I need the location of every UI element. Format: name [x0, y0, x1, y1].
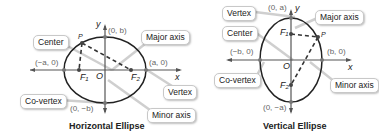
- vertex-callout-v: Vertex: [222, 6, 256, 21]
- y-axis-arrow-down-v: [289, 108, 293, 114]
- f1-label-h: F₁: [80, 72, 88, 82]
- co-vertex-left-v: [258, 58, 262, 62]
- point-p-label-h: P: [78, 33, 83, 40]
- co-vertex-right-v: [320, 58, 324, 62]
- focal-radius-1-v: [291, 34, 318, 37]
- vertex-top-v: [289, 16, 293, 20]
- focal-radius-2-v: [291, 37, 318, 85]
- co-vertex-callout-v: Co-vertex: [214, 73, 261, 88]
- major-axis-callout: Major axis: [141, 30, 190, 45]
- co-vertex-bottom: [103, 101, 107, 105]
- y-axis-arrow-up-v: [289, 9, 293, 15]
- vertex-leader-line: [147, 70, 172, 86]
- coord-right-v: (b, 0): [327, 47, 346, 56]
- f2-label-h: F₂: [131, 72, 140, 82]
- f2-label-v: F₂: [280, 80, 289, 90]
- y-axis-arrow-up: [103, 24, 107, 30]
- center-callout: Center: [33, 35, 69, 50]
- coord-top-h: (0, b): [108, 26, 127, 35]
- horizontal-ellipse-caption: Horizontal Ellipse: [69, 121, 145, 131]
- minor-axis-callout: Minor axis: [147, 108, 196, 123]
- minor-axis-leader-line: [108, 80, 150, 110]
- origin-label-v: O: [283, 61, 290, 71]
- vertex-callout: Vertex: [163, 85, 197, 100]
- major-axis-callout-v: Major axis: [315, 10, 364, 25]
- co-vertex-top: [103, 35, 107, 39]
- x-axis-arrow-left: [30, 68, 35, 72]
- vertex-right: [144, 68, 148, 72]
- coord-left-v: (−b, 0): [230, 47, 253, 56]
- focus-f1-v: [289, 32, 293, 36]
- origin-label-h: O: [96, 71, 103, 81]
- x-axis-label-v: x: [348, 62, 353, 72]
- point-p-label-v: P: [321, 31, 326, 38]
- minor-axis-callout-v: Minor axis: [330, 78, 379, 93]
- coord-top-v: (0, a): [268, 3, 287, 12]
- focus-f2-v: [289, 83, 293, 87]
- coord-bottom-h: (0, −b): [70, 104, 93, 113]
- point-p: [80, 41, 84, 45]
- co-vertex-callout: Co-vertex: [20, 94, 67, 109]
- coord-left-h: (−a, 0): [35, 58, 58, 67]
- y-axis-label-h: y: [96, 19, 101, 29]
- vertex-leader-line-v: [255, 12, 295, 17]
- y-axis-label-v: y: [295, 3, 300, 13]
- y-axis-arrow-down: [103, 108, 107, 114]
- x-axis-label-h: x: [175, 72, 180, 82]
- major-axis-leader-line: [112, 44, 145, 70]
- point-p-v: [316, 35, 320, 39]
- x-axis-arrow-left-v: [226, 58, 232, 62]
- center-callout-v: Center: [222, 26, 258, 41]
- vertex-left: [62, 68, 66, 72]
- vertical-ellipse-caption: Vertical Ellipse: [263, 121, 327, 131]
- vertex-bottom-v: [289, 100, 293, 104]
- coord-right-h: (a, 0): [149, 58, 168, 67]
- f1-label-v: F₁: [280, 27, 288, 37]
- focal-radius-1: [79, 43, 82, 70]
- coord-bottom-v: (0, −a): [263, 103, 286, 112]
